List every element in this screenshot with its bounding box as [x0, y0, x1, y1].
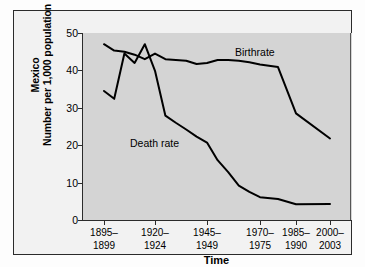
- y-tick-label: 0: [72, 214, 78, 226]
- x-tick-mark: [260, 220, 261, 225]
- y-tick-label: 20: [66, 139, 78, 151]
- x-tick-label: 1985–1990: [282, 227, 310, 252]
- y-axis-label-region: Mexico: [30, 0, 42, 165]
- x-tick-label-line1: 1970–: [246, 227, 274, 240]
- x-tick-label-line2: 1990: [282, 240, 310, 253]
- line-death-rate: [104, 44, 330, 204]
- y-axis-label-units: Number per 1,000 population: [42, 0, 54, 165]
- y-tick-mark: [78, 70, 83, 71]
- x-tick-label: 1970–1975: [246, 227, 274, 252]
- x-tick-label-line2: 1899: [90, 240, 118, 253]
- x-tick-mark: [330, 220, 331, 225]
- plot-area: Birthrate Death rate 010203040501895–189…: [82, 33, 352, 221]
- chart-container: Mexico Number per 1,000 population Birth…: [0, 0, 365, 267]
- x-tick-label: 2000–2003: [316, 227, 344, 252]
- y-tick-label: 40: [66, 64, 78, 76]
- x-tick-label: 1945–1949: [193, 227, 221, 252]
- chart-frame: Mexico Number per 1,000 population Birth…: [13, 10, 352, 255]
- x-tick-mark: [207, 220, 208, 225]
- series-label-birthrate: Birthrate: [235, 46, 275, 58]
- x-tick-label-line1: 1945–: [193, 227, 221, 240]
- x-tick-label-line1: 2000–: [316, 227, 344, 240]
- x-tick-label-line2: 1949: [193, 240, 221, 253]
- x-tick-mark: [155, 220, 156, 225]
- x-tick-label: 1895–1899: [90, 227, 118, 252]
- x-tick-label-line2: 2003: [316, 240, 344, 253]
- x-tick-label-line1: 1985–: [282, 227, 310, 240]
- y-tick-mark: [78, 108, 83, 109]
- series-lines: [83, 33, 352, 220]
- x-tick-mark: [296, 220, 297, 225]
- y-tick-mark: [78, 183, 83, 184]
- x-tick-label-line1: 1895–: [90, 227, 118, 240]
- y-tick-mark: [78, 33, 83, 34]
- x-tick-label-line2: 1924: [141, 240, 169, 253]
- x-tick-label-line2: 1975: [246, 240, 274, 253]
- y-tick-label: 50: [66, 27, 78, 39]
- y-tick-mark: [78, 145, 83, 146]
- x-axis-label: Time: [82, 254, 351, 266]
- y-tick-label: 30: [66, 102, 78, 114]
- x-tick-label: 1920–1924: [141, 227, 169, 252]
- y-axis-label: Mexico Number per 1,000 population: [30, 0, 54, 165]
- x-tick-mark: [104, 220, 105, 225]
- y-tick-mark: [78, 220, 83, 221]
- y-tick-label: 10: [66, 177, 78, 189]
- series-label-deathrate: Death rate: [130, 137, 179, 149]
- x-tick-label-line1: 1920–: [141, 227, 169, 240]
